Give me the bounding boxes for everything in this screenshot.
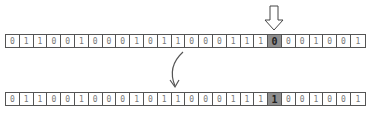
bit-cell-highlighted: 0 [268, 35, 282, 47]
bit-cell: 0 [89, 93, 103, 105]
bit-cell: 0 [144, 93, 158, 105]
bit-cell: 1 [310, 93, 324, 105]
bit-cell: 1 [351, 35, 365, 47]
bit-cell: 0 [199, 93, 213, 105]
bit-cell: 1 [75, 35, 89, 47]
bit-cell: 1 [172, 93, 186, 105]
bit-cell: 1 [241, 35, 255, 47]
bit-cell: 0 [47, 35, 61, 47]
bit-cell: 0 [296, 93, 310, 105]
bit-cell: 0 [6, 35, 20, 47]
bit-cell: 1 [158, 35, 172, 47]
bit-cell: 0 [61, 35, 75, 47]
bit-row-after: 01100100010110001111001001 [5, 92, 366, 106]
bit-cell: 1 [227, 93, 241, 105]
bit-cell: 1 [227, 35, 241, 47]
bit-cell: 1 [130, 93, 144, 105]
bit-cell: 1 [158, 93, 172, 105]
bit-cell: 0 [116, 93, 130, 105]
bit-cell: 1 [172, 35, 186, 47]
bit-cell: 1 [34, 35, 48, 47]
bit-cell: 0 [103, 93, 117, 105]
bit-cell: 0 [199, 35, 213, 47]
bit-cell: 1 [254, 35, 268, 47]
down-arrow-icon [265, 6, 283, 30]
bit-row-before: 01100100010110001110001001 [5, 34, 366, 48]
bit-cell: 0 [185, 93, 199, 105]
bit-cell: 1 [20, 93, 34, 105]
bit-cell: 0 [337, 93, 351, 105]
bit-cell: 0 [61, 93, 75, 105]
bit-cell: 0 [296, 35, 310, 47]
bit-cell: 0 [282, 93, 296, 105]
bit-cell: 1 [20, 35, 34, 47]
bit-cell: 1 [310, 35, 324, 47]
curved-arrow-icon [170, 52, 183, 87]
bit-cell-highlighted: 1 [268, 93, 282, 105]
bit-cell: 0 [282, 35, 296, 47]
bit-cell: 0 [323, 35, 337, 47]
bit-cell: 0 [47, 93, 61, 105]
bit-cell: 0 [337, 35, 351, 47]
bit-cell: 0 [116, 35, 130, 47]
bit-cell: 0 [323, 93, 337, 105]
bit-cell: 0 [144, 35, 158, 47]
bit-cell: 1 [254, 93, 268, 105]
bit-cell: 1 [130, 35, 144, 47]
bit-cell: 0 [6, 93, 20, 105]
bit-cell: 0 [103, 35, 117, 47]
bit-cell: 0 [89, 35, 103, 47]
bit-cell: 1 [351, 93, 365, 105]
bit-cell: 1 [241, 93, 255, 105]
bit-cell: 0 [213, 93, 227, 105]
bit-cell: 0 [213, 35, 227, 47]
bit-cell: 1 [75, 93, 89, 105]
bit-cell: 0 [185, 35, 199, 47]
bit-cell: 1 [34, 93, 48, 105]
